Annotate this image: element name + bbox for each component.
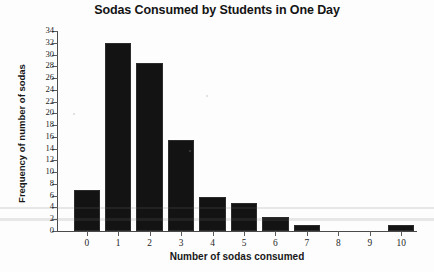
x-tick-label: 0 — [70, 238, 104, 248]
x-tick-label: 1 — [101, 238, 135, 248]
y-tick-label: 2 — [50, 213, 54, 224]
y-tick-label: 30 — [45, 49, 54, 60]
y-tick-label: 28 — [45, 60, 54, 71]
x-tick-mark — [307, 231, 308, 236]
bar — [136, 63, 162, 231]
x-tick-mark — [370, 231, 371, 236]
x-tick-label: 5 — [227, 238, 261, 248]
x-tick-mark — [150, 231, 151, 236]
y-tick-label: 34 — [45, 25, 54, 36]
y-tick-label: 18 — [45, 119, 54, 130]
y-tick-label: 22 — [45, 96, 54, 107]
x-tick-label: 8 — [321, 238, 355, 248]
x-axis-line — [57, 231, 417, 232]
y-tick-label: 10 — [45, 166, 54, 177]
x-tick-label: 2 — [133, 238, 167, 248]
bar — [74, 190, 100, 231]
bar — [199, 197, 225, 231]
y-tick-label: 32 — [45, 37, 54, 48]
y-axis-title: Frequency of number of sodas — [16, 39, 27, 229]
x-tick-label: 10 — [384, 238, 418, 248]
bar — [262, 217, 288, 231]
x-tick-label: 6 — [258, 238, 292, 248]
chart-title: Sodas Consumed by Students in One Day — [0, 3, 434, 17]
y-tick-label: 14 — [45, 143, 54, 154]
x-tick-mark — [213, 231, 214, 236]
chart-figure: Sodas Consumed by Students in One Day Fr… — [0, 0, 434, 272]
y-tick-label: 16 — [45, 131, 54, 142]
x-tick-label: 4 — [196, 238, 230, 248]
bar — [231, 203, 257, 231]
x-tick-mark — [401, 231, 402, 236]
y-tick-label: 20 — [45, 107, 54, 118]
x-tick-mark — [181, 231, 182, 236]
x-tick-mark — [118, 231, 119, 236]
y-tick-label: 8 — [50, 178, 54, 189]
bar — [168, 140, 194, 231]
bar — [388, 225, 414, 231]
y-tick-label: 26 — [45, 72, 54, 83]
x-tick-label: 9 — [353, 238, 387, 248]
y-axis-line — [57, 31, 58, 232]
x-tick-mark — [275, 231, 276, 236]
bar — [105, 43, 131, 231]
x-axis-title: Number of sodas consumed — [57, 251, 417, 262]
y-tick-label: 4 — [50, 201, 54, 212]
y-tick-label: 6 — [50, 190, 54, 201]
x-tick-mark — [244, 231, 245, 236]
x-tick-label: 7 — [290, 238, 324, 248]
y-tick-label: 24 — [45, 84, 54, 95]
x-tick-label: 3 — [164, 238, 198, 248]
x-tick-mark — [87, 231, 88, 236]
x-tick-mark — [338, 231, 339, 236]
y-tick-label: 12 — [45, 154, 54, 165]
y-tick-label: 0 — [50, 225, 54, 236]
plot-area: 0246810121416182022242628303234 01234567… — [57, 31, 417, 232]
bar — [294, 225, 320, 231]
